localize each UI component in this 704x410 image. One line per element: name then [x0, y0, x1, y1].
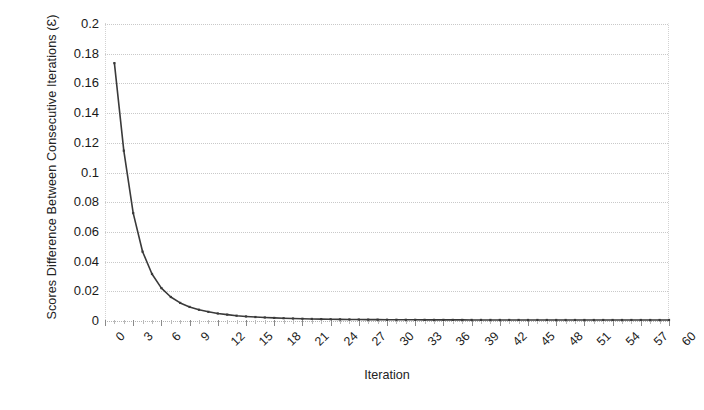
x-major-tick [359, 320, 360, 326]
x-major-tick [133, 320, 134, 326]
x-major-tick [105, 320, 106, 326]
x-minor-tick [114, 320, 115, 324]
series-marker [301, 318, 303, 320]
x-tick-label: 39 [482, 329, 502, 349]
x-major-tick [274, 320, 275, 326]
x-major-tick [331, 320, 332, 326]
series-marker [574, 319, 576, 321]
series-marker [593, 319, 595, 321]
x-tick-label: 36 [453, 329, 473, 349]
series-marker [273, 317, 275, 319]
series-marker [414, 319, 416, 321]
x-tick-label: 42 [510, 329, 530, 349]
series-marker [565, 319, 567, 321]
x-major-tick [218, 320, 219, 326]
series-marker [536, 319, 538, 321]
x-tick-label: 9 [198, 329, 213, 344]
series-polyline [114, 63, 669, 320]
series-marker [452, 319, 454, 321]
x-major-tick [302, 320, 303, 326]
x-minor-tick [284, 320, 285, 324]
series-marker [471, 319, 473, 321]
x-minor-tick [180, 320, 181, 324]
series-marker [386, 319, 388, 321]
series-marker [207, 311, 209, 313]
series-marker [527, 319, 529, 321]
x-tick-label: 24 [341, 329, 361, 349]
series-marker [659, 319, 661, 321]
x-major-tick [387, 320, 388, 326]
series-marker [461, 319, 463, 321]
series-marker [170, 296, 172, 298]
series-marker [123, 150, 125, 152]
x-tick-label: 30 [397, 329, 417, 349]
x-tick-label: 33 [425, 329, 445, 349]
series-marker [292, 317, 294, 319]
series-marker [113, 62, 115, 64]
series-marker [377, 319, 379, 321]
series-marker [621, 319, 623, 321]
series-marker [330, 318, 332, 320]
x-tick-label: 48 [566, 329, 586, 349]
series-marker [424, 319, 426, 321]
series-marker [236, 315, 238, 317]
x-tick-label: 12 [228, 329, 248, 349]
x-tick-label: 6 [169, 329, 184, 344]
x-minor-tick [265, 320, 266, 324]
y-axis-title: Scores Difference Between Consecutive It… [45, 0, 59, 337]
x-tick-label: 3 [141, 329, 156, 344]
x-tick-label: 27 [369, 329, 389, 349]
x-minor-tick [227, 320, 228, 324]
x-minor-tick [152, 320, 153, 324]
series-marker [442, 319, 444, 321]
series-marker [640, 319, 642, 321]
series-marker [320, 318, 322, 320]
series-marker [339, 318, 341, 320]
x-minor-tick [199, 320, 200, 324]
x-minor-tick [255, 320, 256, 324]
series-marker [602, 319, 604, 321]
series-marker [546, 319, 548, 321]
series-marker [395, 319, 397, 321]
x-minor-tick [293, 320, 294, 324]
x-minor-tick [321, 320, 322, 324]
series-marker [226, 314, 228, 316]
x-tick-label: 54 [623, 329, 643, 349]
series-marker [358, 318, 360, 320]
series-marker [217, 312, 219, 314]
data-series-line [105, 23, 669, 320]
series-marker [198, 309, 200, 311]
series-marker [151, 273, 153, 275]
series-marker [405, 319, 407, 321]
series-marker [264, 316, 266, 318]
x-tick-label: 60 [679, 329, 699, 349]
series-marker [160, 287, 162, 289]
chart-figure: Scores Difference Between Consecutive It… [0, 0, 704, 410]
series-marker [649, 319, 651, 321]
x-tick-label: 15 [256, 329, 276, 349]
x-major-tick [161, 320, 162, 326]
x-tick-label: 0 [113, 329, 128, 344]
series-marker [480, 319, 482, 321]
x-minor-tick [340, 320, 341, 324]
series-marker [508, 319, 510, 321]
series-marker [518, 319, 520, 321]
series-marker [489, 319, 491, 321]
series-marker [367, 319, 369, 321]
series-marker [311, 318, 313, 320]
series-marker [583, 319, 585, 321]
x-minor-tick [171, 320, 172, 324]
x-tick-label: 57 [651, 329, 671, 349]
x-tick-label: 21 [312, 329, 332, 349]
series-marker [668, 319, 670, 321]
series-marker [283, 317, 285, 319]
x-major-tick [190, 320, 191, 326]
x-tick-label: 51 [594, 329, 614, 349]
series-marker [348, 318, 350, 320]
series-marker [189, 306, 191, 308]
x-minor-tick [237, 320, 238, 324]
series-marker [245, 315, 247, 317]
series-marker [254, 316, 256, 318]
series-marker [630, 319, 632, 321]
series-marker [142, 251, 144, 253]
